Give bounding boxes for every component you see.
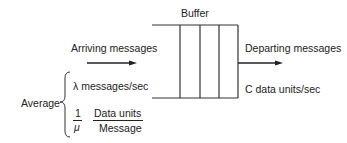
arriving-label: Arriving messages — [71, 43, 157, 54]
buffer-label: Buffer — [181, 8, 209, 19]
arrival-rate: λ messages/sec — [73, 81, 148, 92]
mean-coef-denominator: μ — [74, 122, 80, 133]
average-label: Average — [21, 98, 60, 109]
average-brace — [60, 72, 70, 137]
departing-rate: C data units/sec — [245, 84, 320, 95]
arriving-arrow — [87, 61, 137, 66]
mean-coef-numerator: 1 — [75, 108, 81, 119]
queue-diagram — [0, 0, 347, 143]
departing-arrow — [238, 61, 283, 66]
departing-label: Departing messages — [245, 43, 341, 54]
mean-length-numerator: Data units — [94, 108, 141, 119]
mean-length-denominator: Message — [99, 123, 142, 134]
mean-length-fraction-bar — [93, 120, 143, 121]
